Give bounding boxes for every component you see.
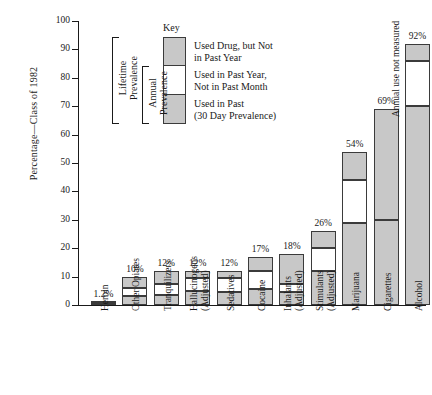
bar-value-label: 26% bbox=[300, 218, 346, 228]
x-axis-category-label: Cigarettes bbox=[383, 272, 394, 311]
y-axis-tick-label: 0 bbox=[40, 300, 70, 310]
bracket-label-lifetime-prevalence: Lifetime Prevalence bbox=[117, 33, 139, 123]
x-axis-category-label: Stimulants (Adjusted) bbox=[315, 270, 336, 311]
bracket-label-annual-prevalence: Annual Prevalence bbox=[147, 63, 169, 123]
x-axis-category-label: Heroin bbox=[100, 285, 111, 311]
bar-segment bbox=[405, 61, 430, 106]
y-axis-tick-label: 50 bbox=[40, 158, 70, 168]
bar-segment bbox=[342, 152, 367, 180]
bar-value-label: 69% bbox=[363, 96, 409, 106]
legend-title: Key bbox=[163, 22, 180, 33]
x-axis-category-label: Tranquilizers bbox=[163, 261, 174, 311]
chart-container: Percentage—Class of 1982 010203040506070… bbox=[0, 0, 432, 395]
y-axis-tick-label: 80 bbox=[40, 73, 70, 83]
y-axis-tick-label: 60 bbox=[40, 130, 70, 140]
legend-label-past-30-days: Used in Past (30 Day Prevalence) bbox=[194, 98, 276, 121]
bar-value-label: 18% bbox=[269, 241, 315, 251]
y-axis-tick-label: 70 bbox=[40, 101, 70, 111]
y-axis-tick-label: 30 bbox=[40, 215, 70, 225]
bar-segment bbox=[405, 44, 430, 61]
bar-segment bbox=[248, 257, 273, 271]
bar-value-label: 54% bbox=[332, 139, 378, 149]
x-axis-category-label: Cocaine bbox=[257, 280, 268, 311]
y-axis-tick-label: 40 bbox=[40, 186, 70, 196]
x-axis-category-label: Sedatives bbox=[226, 275, 237, 311]
bar-value-label: 12% bbox=[206, 258, 252, 268]
x-axis-category-label: Alcohol bbox=[414, 280, 425, 311]
y-axis-tick-label: 90 bbox=[40, 44, 70, 54]
x-axis-category-label: Inhalants (Adjusted) bbox=[283, 270, 304, 311]
y-axis-tick-label: 20 bbox=[40, 243, 70, 253]
legend-label-used-not-past-year: Used Drug, but Not in Past Year bbox=[194, 40, 273, 63]
x-axis-category-label: Marijuana bbox=[351, 272, 362, 311]
bar-annotation: Annual use not measured bbox=[391, 21, 401, 117]
x-axis-category-label: Hallucinogens (Adjusted) bbox=[189, 256, 210, 311]
y-axis-tick bbox=[72, 305, 79, 306]
legend-swatch-used-not-past-year bbox=[163, 37, 186, 66]
y-axis-tick-label: 10 bbox=[40, 272, 70, 282]
y-axis-tick-label: 100 bbox=[40, 16, 70, 26]
y-axis-title: Percentage—Class of 1982 bbox=[28, 39, 39, 209]
bar: 92% bbox=[405, 44, 430, 305]
bar-segment bbox=[311, 231, 336, 248]
bar-segment bbox=[311, 248, 336, 271]
x-axis-category-label: Other Opiates bbox=[131, 258, 142, 311]
bar-segment bbox=[342, 180, 367, 223]
bar-segment bbox=[405, 106, 430, 305]
bar-segment bbox=[374, 109, 399, 220]
legend-label-past-year-not-past-month: Used in Past Year, Not in Past Month bbox=[194, 69, 268, 92]
